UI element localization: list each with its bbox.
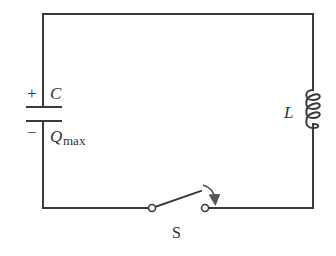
- capacitor-plus-sign: +: [27, 84, 37, 103]
- switch-symbol: [149, 185, 216, 212]
- capacitor-minus-sign: −: [27, 123, 37, 142]
- lc-circuit-diagram: + C − Q max L S: [0, 0, 336, 256]
- switch-arm: [155, 191, 201, 207]
- switch-terminal-left: [149, 205, 156, 212]
- switch-closing-arrow-icon: [203, 185, 215, 200]
- right-wire-lower: [208, 124, 313, 208]
- switch-terminal-right: [202, 205, 209, 212]
- inductor-coil-icon: [306, 90, 320, 128]
- capacitor-label: C: [50, 84, 62, 103]
- inductor-label: L: [283, 103, 293, 122]
- switch-label: S: [172, 224, 181, 241]
- capacitor-symbol: [27, 107, 61, 121]
- charge-subscript: max: [63, 133, 86, 148]
- charge-symbol: Q: [50, 127, 62, 146]
